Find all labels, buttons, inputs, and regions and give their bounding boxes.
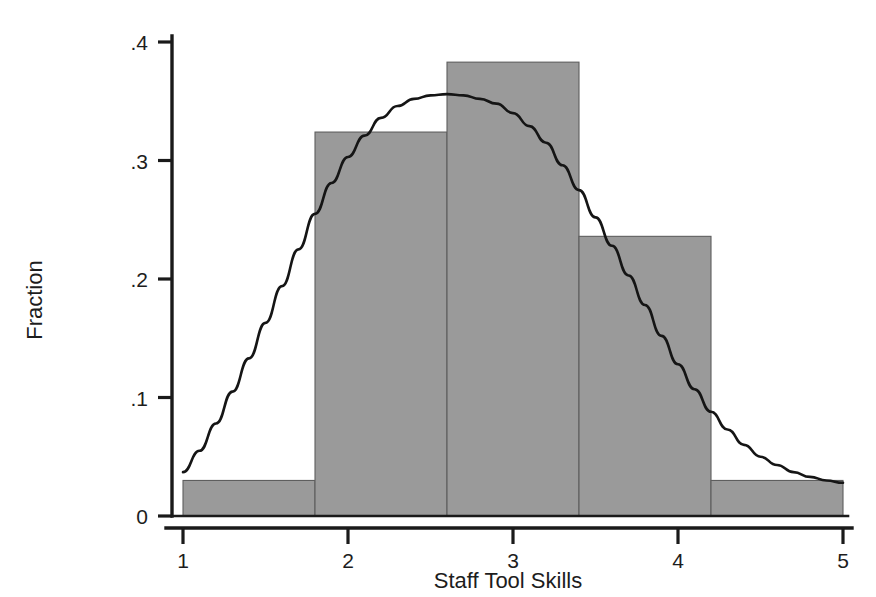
histogram-bar	[711, 480, 843, 516]
histogram-bar	[447, 62, 579, 516]
y-tick-label: .2	[130, 268, 148, 291]
y-tick-label: .1	[130, 387, 148, 410]
x-tick-label: 2	[342, 549, 354, 572]
x-tick-label: 4	[672, 549, 684, 572]
y-tick-label: .4	[130, 31, 148, 54]
chart-canvas: 0.1.2.3.4 12345 Staff Tool Skills Fracti…	[0, 0, 876, 597]
x-tick-label: 5	[837, 549, 849, 572]
histogram-bar	[315, 132, 447, 516]
histogram-bars	[183, 62, 843, 516]
y-tick-label: 0	[136, 505, 148, 528]
histogram-figure: 0.1.2.3.4 12345 Staff Tool Skills Fracti…	[0, 0, 876, 597]
histogram-bar	[183, 480, 315, 516]
x-axis-title: Staff Tool Skills	[434, 568, 582, 593]
y-tick-label: .3	[130, 150, 148, 173]
y-axis-ticks: 0.1.2.3.4	[130, 31, 172, 528]
histogram-bar	[579, 236, 711, 516]
x-axis-ticks: 12345	[177, 528, 849, 572]
y-axis-title: Fraction	[22, 260, 47, 339]
x-tick-label: 1	[177, 549, 189, 572]
